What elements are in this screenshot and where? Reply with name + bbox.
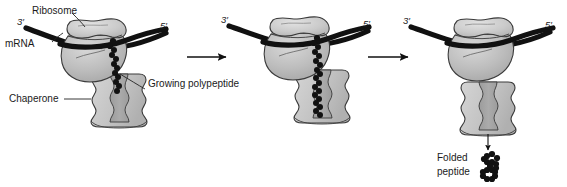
panel-3-label-3-prime: 3′ xyxy=(403,15,410,26)
panel-2-label-5-prime: 5′ xyxy=(363,18,370,29)
panel-1 xyxy=(26,13,166,128)
label-folded-peptide-line2: peptide xyxy=(437,166,470,178)
panel-1-label-3-prime: 3′ xyxy=(17,16,24,27)
panel-2 xyxy=(229,17,369,124)
label-growing-polypeptide: Growing polypeptide xyxy=(148,78,239,89)
panel-3-chaperone xyxy=(460,82,516,136)
label-mrna: mRNA xyxy=(5,38,34,49)
protein-folding-diagram: Ribosome 3′ mRNA 5′ Chaperone Growing po… xyxy=(0,0,567,187)
label-ribosome: Ribosome xyxy=(32,5,77,16)
panel-2-label-3-prime: 3′ xyxy=(221,14,228,25)
panel-3-ribosome xyxy=(448,18,513,81)
panel-1-label-5-prime: 5′ xyxy=(160,20,167,31)
panel-3-folded-peptide xyxy=(480,151,500,182)
label-chaperone: Chaperone xyxy=(9,93,58,104)
panel-3 xyxy=(411,18,553,182)
panel-1-chaperone xyxy=(91,74,147,128)
panel-3-label-5-prime: 5′ xyxy=(545,19,552,30)
label-folded-peptide-line1: Folded xyxy=(437,152,468,164)
diagram-canvas xyxy=(0,0,567,187)
